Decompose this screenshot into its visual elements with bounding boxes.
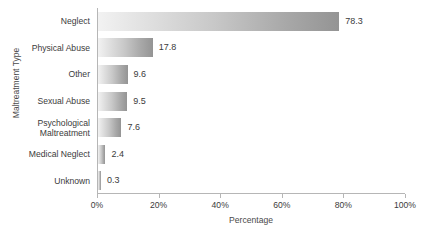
bar-value-label: 2.4 [111,149,124,159]
bar-value-label: 0.3 [107,175,120,185]
bar-row: 17.8 [98,38,406,57]
x-tick-label: 100% [385,200,425,210]
x-tick-label: 60% [262,200,302,210]
bar [98,65,128,84]
bar-row: 9.6 [98,65,406,84]
bar-value-label: 7.6 [127,122,140,132]
plot-area: 78.317.89.69.57.62.40.30%20%40%60%80%100… [97,8,405,194]
x-axis-line [97,193,405,194]
x-axis-title: Percentage [97,215,405,225]
bar [98,12,339,31]
category-label: Physical Abuse [0,43,90,53]
bar-value-label: 9.5 [133,96,146,106]
bar-row: 9.5 [98,92,406,111]
category-label: Psychological Maltreatment [0,118,90,138]
category-label: Other [0,69,90,79]
category-label: Unknown [0,176,90,186]
x-tick-mark [405,194,406,198]
category-axis-labels: NeglectPhysical AbuseOtherSexual AbusePs… [0,8,94,194]
x-tick-mark [282,194,283,198]
bar [98,118,121,137]
bar-row: 7.6 [98,118,406,137]
x-tick-mark [343,194,344,198]
x-tick-label: 40% [200,200,240,210]
category-label: Sexual Abuse [0,96,90,106]
x-tick-label: 80% [323,200,363,210]
x-tick-label: 0% [77,200,117,210]
category-label: Medical Neglect [0,149,90,159]
bar [98,171,101,190]
bar-value-label: 9.6 [134,69,147,79]
bar-row: 0.3 [98,171,406,190]
x-tick-mark [97,194,98,198]
bar [98,92,127,111]
x-tick-mark [220,194,221,198]
bar-row: 78.3 [98,12,406,31]
bar-value-label: 78.3 [345,16,363,26]
x-tick-mark [159,194,160,198]
x-tick-label: 20% [139,200,179,210]
bar-chart: Maltreatment Type NeglectPhysical AbuseO… [0,0,430,241]
bar-value-label: 17.8 [159,42,177,52]
category-label: Neglect [0,16,90,26]
bar-row: 2.4 [98,145,406,164]
bar [98,38,153,57]
bar [98,145,105,164]
